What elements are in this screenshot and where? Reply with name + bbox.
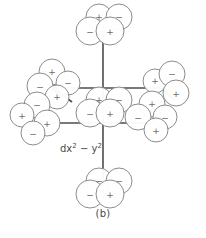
sign-minus: − xyxy=(64,78,72,88)
orbital-label-sup-2: 2 xyxy=(97,142,101,150)
orbital-diagram-canvas: + − − + + − − + − − − + xyxy=(0,0,206,238)
sign-minus: − xyxy=(168,69,176,79)
figure-caption: (b) xyxy=(0,208,206,219)
sign-plus: + xyxy=(106,27,114,37)
sign-plus: + xyxy=(151,76,159,86)
sign-plus: + xyxy=(18,111,26,121)
sign-minus: − xyxy=(134,113,142,123)
sign-minus: − xyxy=(86,109,94,119)
sign-plus: + xyxy=(95,12,103,22)
sign-plus: + xyxy=(43,119,51,129)
sign-minus: − xyxy=(33,100,41,110)
bottom-cluster xyxy=(76,168,132,208)
sign-plus: + xyxy=(106,109,114,119)
sign-plus: + xyxy=(106,190,114,200)
sign-plus: + xyxy=(95,95,103,105)
sign-minus: − xyxy=(86,27,94,37)
sign-minus: − xyxy=(86,190,94,200)
orbital-label: dx2 − y2 xyxy=(60,142,102,154)
orbital-label-minus-y: − y xyxy=(77,143,98,154)
sign-minus: − xyxy=(95,176,103,186)
sign-plus: + xyxy=(172,89,180,99)
top-cluster xyxy=(76,4,132,45)
sign-plus: + xyxy=(48,67,56,77)
orbital-diagram-figure: + − − + + − − + − − − + xyxy=(0,0,206,238)
orbital-label-base: dx xyxy=(60,143,72,154)
sign-minus: − xyxy=(115,95,123,105)
sign-plus: + xyxy=(152,126,160,136)
sign-minus: − xyxy=(36,82,44,92)
center-cluster xyxy=(76,87,132,127)
sign-minus: − xyxy=(115,12,123,22)
sign-minus: − xyxy=(29,129,37,139)
orbital-label-text: dx2 − y2 xyxy=(60,142,102,154)
sign-minus: − xyxy=(115,176,123,186)
sign-plus: + xyxy=(148,99,156,109)
sign-plus: + xyxy=(53,92,61,102)
sign-minus: − xyxy=(161,113,169,123)
